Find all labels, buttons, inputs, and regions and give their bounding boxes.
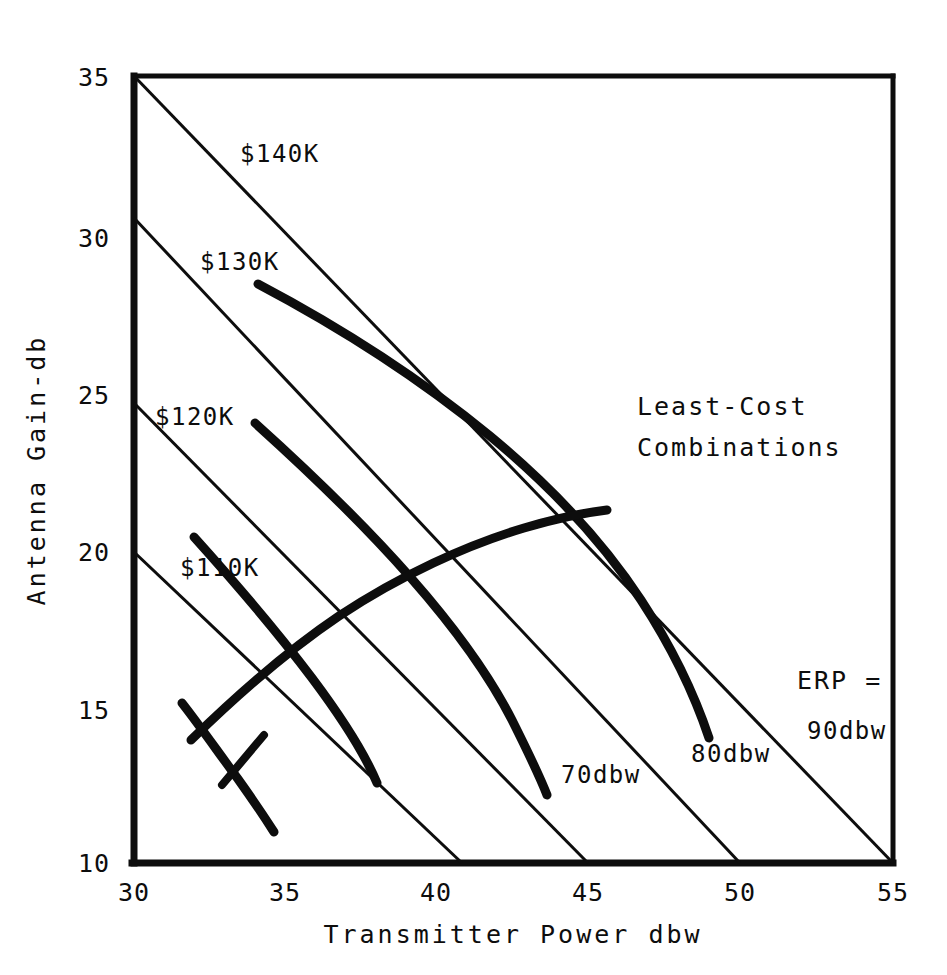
- iso-cost-line-120k: [134, 403, 588, 863]
- least-cost-line-1: Least-Cost: [637, 392, 808, 421]
- iso-cost-series-labels: $140K $130K $120K $110K: [155, 140, 320, 582]
- series-label-110k: $110K: [180, 554, 260, 582]
- y-tick-25: 25: [78, 381, 110, 410]
- y-tick-30: 30: [78, 224, 110, 253]
- erp-curve-60dbw: [182, 703, 274, 832]
- iso-cost-lines: [134, 76, 893, 863]
- x-tick-45: 45: [572, 878, 604, 907]
- x-axis-tick-labels: 30 35 40 45 50 55: [118, 878, 909, 907]
- least-cost-envelope-curve: [191, 510, 607, 740]
- least-cost-annotation: Least-Cost Combinations: [637, 392, 842, 462]
- x-tick-55: 55: [877, 878, 909, 907]
- series-label-140k: $140K: [240, 140, 320, 168]
- least-cost-line-2: Combinations: [637, 433, 842, 462]
- y-tick-20: 20: [78, 538, 110, 567]
- y-axis-title: Antenna Gain-db: [22, 335, 51, 606]
- series-label-80dbw: 80dbw: [691, 740, 771, 768]
- x-tick-30: 30: [118, 878, 150, 907]
- y-tick-10: 10: [78, 849, 110, 878]
- erp-equals-label: ERP =: [797, 666, 882, 695]
- erp-curves: [182, 284, 709, 832]
- chart-figure: 35 30 25 20 15 10 30 35 40 45 50 55 Tran…: [0, 0, 947, 975]
- chart-svg: 35 30 25 20 15 10 30 35 40 45 50 55 Tran…: [0, 0, 947, 975]
- x-tick-35: 35: [269, 878, 301, 907]
- x-axis-title: Transmitter Power dbw: [323, 920, 702, 949]
- erp-series-labels: 70dbw 80dbw 90dbw ERP =: [561, 666, 887, 789]
- series-label-90dbw: 90dbw: [807, 717, 887, 745]
- x-tick-50: 50: [724, 878, 756, 907]
- iso-cost-line-140k: [134, 76, 893, 863]
- y-tick-15: 15: [78, 696, 110, 725]
- series-label-120k: $120K: [155, 403, 235, 431]
- y-axis-tick-labels: 35 30 25 20 15 10: [78, 63, 110, 878]
- y-tick-35: 35: [78, 63, 110, 92]
- series-label-70dbw: 70dbw: [561, 761, 641, 789]
- series-label-130k: $130K: [200, 248, 280, 276]
- x-tick-40: 40: [420, 878, 452, 907]
